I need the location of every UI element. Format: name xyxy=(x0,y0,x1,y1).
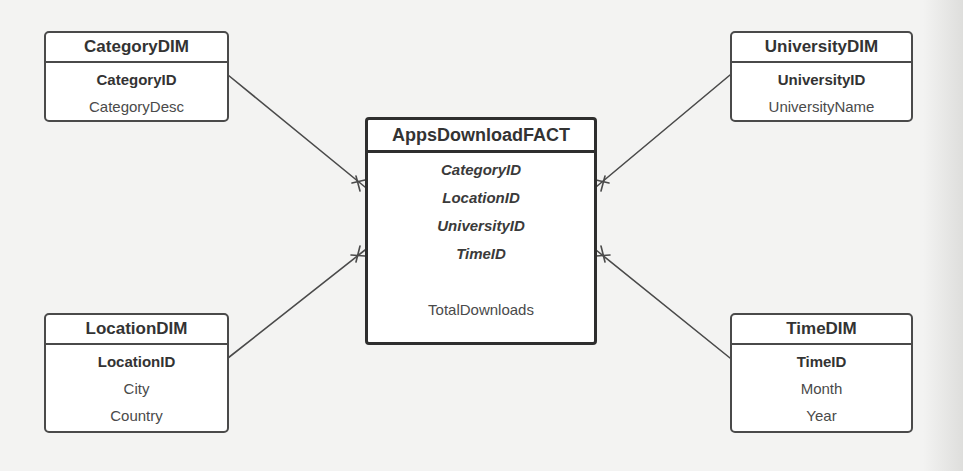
foreign-key-field: TimeID xyxy=(368,240,594,268)
primary-key-field: CategoryID xyxy=(46,66,227,93)
primary-key-field: UniversityID xyxy=(732,66,911,93)
attribute-field: Month xyxy=(732,375,911,402)
relationship-category-fact xyxy=(228,75,365,191)
entity-location-dim[interactable]: LocationDIM LocationID City Country xyxy=(44,313,229,433)
entity-title: UniversityDIM xyxy=(732,33,911,63)
entity-university-dim[interactable]: UniversityDIM UniversityID UniversityNam… xyxy=(730,31,913,122)
entity-title: AppsDownloadFACT xyxy=(368,120,594,153)
entity-title: TimeDIM xyxy=(732,315,911,345)
entity-apps-download-fact[interactable]: AppsDownloadFACT CategoryID LocationID U… xyxy=(365,117,597,345)
diagram-canvas: CategoryDIM CategoryID CategoryDesc Univ… xyxy=(0,0,963,471)
entity-category-dim[interactable]: CategoryDIM CategoryID CategoryDesc xyxy=(44,31,229,122)
foreign-key-field: UniversityID xyxy=(368,212,594,240)
measure-field: TotalDownloads xyxy=(368,296,594,323)
foreign-key-field: CategoryID xyxy=(368,156,594,184)
entity-title: CategoryDIM xyxy=(46,33,227,63)
relationship-location-fact xyxy=(228,246,365,358)
attribute-field: UniversityName xyxy=(732,93,911,120)
attribute-field: CategoryDesc xyxy=(46,93,227,120)
relationship-time-fact xyxy=(596,246,730,358)
spacer xyxy=(368,268,594,296)
attribute-field: City xyxy=(46,375,227,402)
entity-title: LocationDIM xyxy=(46,315,227,345)
attribute-field: Year xyxy=(732,402,911,429)
foreign-key-field: LocationID xyxy=(368,184,594,212)
entity-time-dim[interactable]: TimeDIM TimeID Month Year xyxy=(730,313,913,433)
attribute-field: Country xyxy=(46,402,227,429)
primary-key-field: TimeID xyxy=(732,348,911,375)
relationship-university-fact xyxy=(596,75,730,191)
primary-key-field: LocationID xyxy=(46,348,227,375)
